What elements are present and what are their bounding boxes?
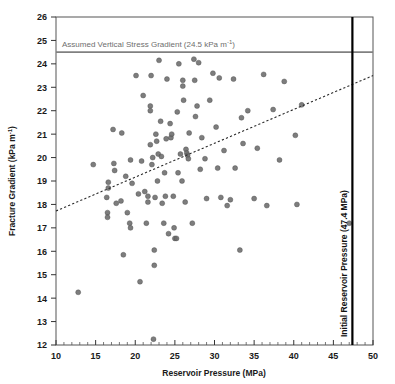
data-point bbox=[153, 195, 158, 200]
y-tick-label: 18 bbox=[37, 200, 47, 210]
x-tick-label: 35 bbox=[249, 351, 259, 361]
data-point bbox=[160, 201, 165, 206]
data-point bbox=[293, 133, 298, 138]
y-tick-label: 15 bbox=[37, 270, 47, 280]
y-tick-label: 24 bbox=[37, 59, 47, 69]
y-tick-label: 23 bbox=[37, 83, 47, 93]
data-point bbox=[215, 166, 220, 171]
data-point bbox=[202, 156, 207, 161]
y-tick-label: 13 bbox=[37, 317, 47, 327]
y-tick-label: 20 bbox=[37, 153, 47, 163]
data-point bbox=[192, 78, 197, 83]
data-point bbox=[136, 191, 141, 196]
data-point bbox=[180, 179, 185, 184]
data-point bbox=[186, 156, 191, 161]
data-point bbox=[210, 71, 215, 76]
data-point bbox=[198, 167, 203, 172]
data-point bbox=[218, 195, 223, 200]
chart-canvas: 101520253035404550 121314151617181920212… bbox=[0, 0, 395, 384]
data-point bbox=[130, 181, 135, 186]
data-point bbox=[142, 189, 147, 194]
data-point bbox=[123, 174, 128, 179]
data-point bbox=[157, 58, 162, 63]
data-point bbox=[104, 195, 109, 200]
data-point bbox=[207, 98, 212, 103]
data-point bbox=[141, 93, 146, 98]
data-point bbox=[164, 136, 169, 141]
data-point bbox=[195, 104, 200, 109]
data-point bbox=[127, 221, 132, 226]
data-point bbox=[171, 194, 176, 199]
assumed-vertical-stress-gradient-label: Assumed Vertical Stress Gradient (24.5 k… bbox=[62, 39, 235, 49]
data-point bbox=[176, 170, 181, 175]
x-axis-title: Reservoir Pressure (MPa) bbox=[162, 368, 266, 378]
data-point bbox=[121, 252, 126, 257]
data-point bbox=[176, 61, 181, 66]
data-point bbox=[111, 127, 116, 132]
plot-frame bbox=[56, 17, 373, 345]
y-tick-label: 22 bbox=[37, 106, 47, 116]
x-tick-label: 40 bbox=[289, 351, 299, 361]
initial-reservoir-pressure-label: Initial Reservoir Pressure (47.4 MPa) bbox=[339, 190, 349, 337]
y-tick-label: 21 bbox=[37, 130, 47, 140]
data-point bbox=[155, 179, 160, 184]
data-point bbox=[180, 84, 185, 89]
data-point bbox=[128, 225, 133, 230]
data-point bbox=[150, 155, 155, 160]
data-point bbox=[111, 161, 116, 166]
data-point bbox=[255, 146, 260, 151]
y-tick-label: 17 bbox=[37, 223, 47, 233]
data-point bbox=[245, 108, 250, 113]
data-point bbox=[191, 57, 196, 62]
data-point bbox=[180, 78, 185, 83]
data-point bbox=[241, 141, 246, 146]
data-point bbox=[294, 202, 299, 207]
data-point bbox=[118, 198, 123, 203]
data-point bbox=[114, 201, 119, 206]
data-point bbox=[217, 75, 222, 80]
data-point bbox=[158, 119, 163, 124]
y-axis-title: Fracture Gradient (kPa m-1) bbox=[7, 126, 17, 236]
data-point bbox=[159, 154, 164, 159]
x-tick-label: 45 bbox=[328, 351, 338, 361]
data-point bbox=[181, 98, 186, 103]
data-point bbox=[76, 290, 81, 295]
data-point bbox=[149, 73, 154, 78]
x-tick-label: 30 bbox=[209, 351, 219, 361]
data-point bbox=[164, 77, 169, 82]
y-axis-ticks: 121314151617181920212223242526 bbox=[37, 12, 56, 350]
data-point bbox=[91, 162, 96, 167]
data-point bbox=[193, 114, 198, 119]
data-point bbox=[168, 121, 173, 126]
data-point bbox=[105, 210, 110, 215]
data-point bbox=[151, 337, 156, 342]
y-tick-label: 16 bbox=[37, 247, 47, 257]
data-point bbox=[125, 210, 130, 215]
data-point bbox=[190, 221, 195, 226]
data-point bbox=[204, 196, 209, 201]
data-point bbox=[166, 231, 171, 236]
x-tick-label: 50 bbox=[368, 351, 378, 361]
data-point bbox=[134, 73, 139, 78]
data-point bbox=[148, 142, 153, 147]
data-point bbox=[252, 196, 257, 201]
data-point bbox=[282, 79, 287, 84]
data-point bbox=[148, 108, 153, 113]
data-point bbox=[139, 159, 144, 164]
y-tick-label: 25 bbox=[37, 36, 47, 46]
data-point bbox=[169, 132, 174, 137]
data-point bbox=[105, 215, 110, 220]
y-tick-label: 26 bbox=[37, 12, 47, 22]
data-point bbox=[271, 107, 276, 112]
data-point bbox=[145, 200, 150, 205]
data-point bbox=[138, 279, 143, 284]
data-point bbox=[175, 109, 180, 114]
x-tick-label: 10 bbox=[51, 351, 61, 361]
data-point bbox=[277, 157, 282, 162]
data-point bbox=[214, 125, 219, 130]
data-point bbox=[187, 130, 192, 135]
data-point bbox=[239, 115, 244, 120]
data-point bbox=[199, 135, 204, 140]
data-point bbox=[222, 148, 227, 153]
data-point bbox=[148, 104, 153, 109]
